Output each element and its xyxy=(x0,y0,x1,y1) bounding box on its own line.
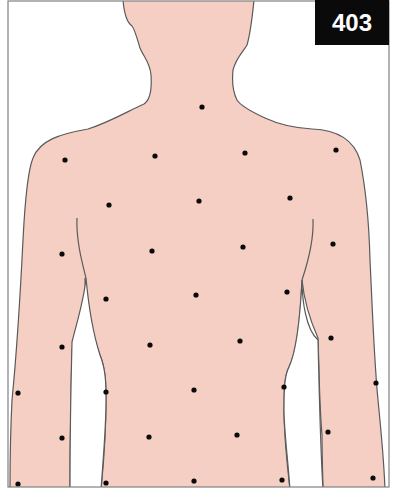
marker-point xyxy=(191,387,196,392)
marker-point xyxy=(147,342,152,347)
marker-point xyxy=(242,150,247,155)
body-diagram xyxy=(0,0,399,496)
marker-point xyxy=(284,289,289,294)
figure-number-badge: 403 xyxy=(315,0,389,45)
marker-point xyxy=(330,241,335,246)
marker-point xyxy=(370,475,375,480)
marker-point xyxy=(193,292,198,297)
marker-point xyxy=(103,480,108,485)
marker-point xyxy=(103,389,108,394)
marker-point xyxy=(146,434,151,439)
marker-point xyxy=(325,429,330,434)
marker-point xyxy=(59,344,64,349)
marker-point xyxy=(106,202,111,207)
marker-point xyxy=(59,251,64,256)
marker-point xyxy=(279,477,284,482)
marker-point xyxy=(62,157,67,162)
marker-point xyxy=(328,335,333,340)
marker-point xyxy=(281,384,286,389)
marker-point xyxy=(199,104,204,109)
marker-point xyxy=(103,296,108,301)
marker-point xyxy=(152,153,157,158)
marker-point xyxy=(15,390,20,395)
marker-point xyxy=(196,198,201,203)
marker-point xyxy=(191,478,196,483)
marker-point xyxy=(149,248,154,253)
marker-point xyxy=(59,435,64,440)
marker-point xyxy=(237,338,242,343)
marker-point xyxy=(240,244,245,249)
marker-point xyxy=(333,147,338,152)
marker-point xyxy=(234,432,239,437)
marker-point xyxy=(287,195,292,200)
torso-silhouette xyxy=(10,0,385,490)
marker-point xyxy=(373,380,378,385)
marker-point xyxy=(15,481,20,486)
